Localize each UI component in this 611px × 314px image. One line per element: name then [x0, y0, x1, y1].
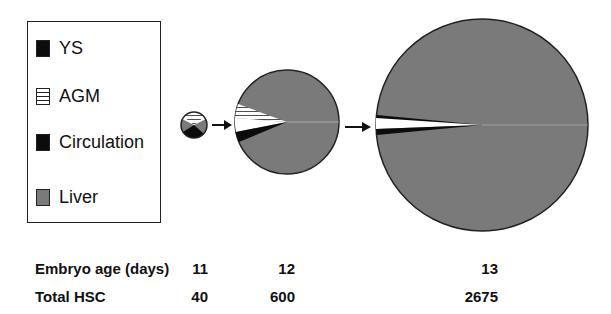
pie-day-12	[235, 70, 339, 174]
arrow-icon	[212, 120, 232, 130]
total-hsc-label: Total HSC	[35, 288, 106, 305]
total-value: 2675	[443, 288, 498, 305]
age-value: 11	[178, 260, 208, 277]
pie-charts	[0, 0, 611, 250]
embryo-age-label: Embryo age (days)	[35, 260, 169, 277]
pie-day-13	[376, 19, 588, 231]
age-value: 13	[458, 260, 498, 277]
pie-day-11	[181, 111, 207, 138]
total-value: 40	[170, 288, 208, 305]
arrow-icon	[345, 122, 371, 132]
total-value: 600	[250, 288, 295, 305]
age-value: 12	[265, 260, 295, 277]
